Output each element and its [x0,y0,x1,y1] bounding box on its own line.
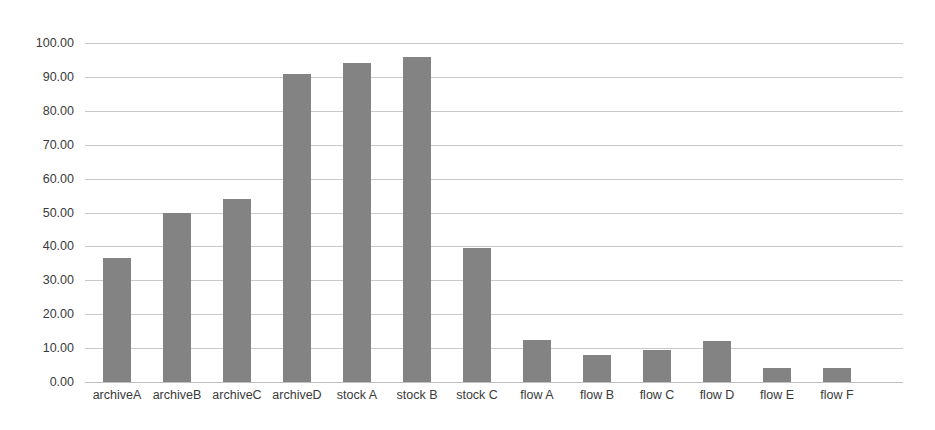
bar-slot [447,43,507,382]
bar[interactable] [583,355,611,382]
y-axis-tick-label: 90.00 [4,71,74,84]
bar[interactable] [523,340,551,382]
bar-slot [207,43,267,382]
bar-slot [567,43,627,382]
bar-slot [747,43,807,382]
y-axis-tick-label: 100.00 [4,37,74,50]
bar[interactable] [703,341,731,382]
bar-chart: 0.0010.0020.0030.0040.0050.0060.0070.008… [0,0,935,430]
bar[interactable] [643,350,671,382]
y-axis-tick-label: 30.00 [4,274,74,287]
plot-area [85,43,903,382]
bar-slot [687,43,747,382]
y-axis-tick-label: 50.00 [4,206,74,219]
bar[interactable] [403,57,431,382]
bar-slot [507,43,567,382]
bar-slot [807,43,867,382]
y-axis-tick-label: 60.00 [4,172,74,185]
bar[interactable] [823,368,851,382]
y-axis-tick-label: 10.00 [4,342,74,355]
bar-slot [387,43,447,382]
y-axis-tick-label: 70.00 [4,138,74,151]
y-axis-tick-label: 0.00 [4,376,74,389]
y-axis-tick-label: 80.00 [4,105,74,118]
bar-slot [267,43,327,382]
bar[interactable] [103,258,131,382]
y-axis-tick-label: 20.00 [4,308,74,321]
x-axis-tick-label: flow F [792,389,882,402]
bar-slot [87,43,147,382]
bar-slot [627,43,687,382]
y-axis-tick-label: 40.00 [4,240,74,253]
bar-series [85,43,903,382]
bar[interactable] [223,199,251,382]
bar-slot [147,43,207,382]
bar[interactable] [763,368,791,382]
gridline [85,382,903,383]
bar-slot [327,43,387,382]
bar[interactable] [343,63,371,382]
bar[interactable] [283,74,311,382]
bar[interactable] [463,248,491,382]
bar[interactable] [163,213,191,383]
